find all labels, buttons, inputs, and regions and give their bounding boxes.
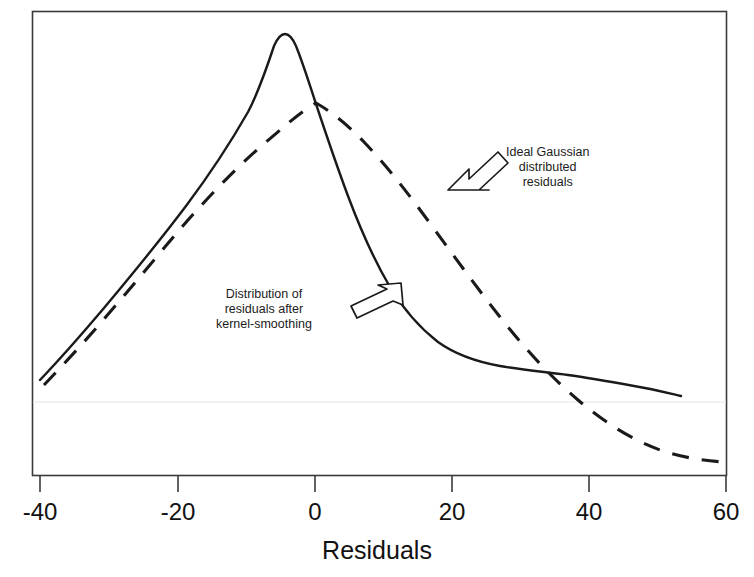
arrow-to-kernel-smoothed [351,283,403,318]
plot-frame [33,12,727,476]
x-axis-ticks [40,476,726,492]
annotation-kernel-smoothing-line-1: Distribution of [216,287,312,302]
x-tick-label-40: 40 [576,498,603,526]
annotation-ideal-gaussian-line-3: residuals [506,175,589,190]
x-tick-label--20: -20 [161,498,196,526]
annotation-ideal-gaussian: Ideal Gaussian distributed residuals [506,145,589,190]
x-axis-title: Residuals [322,536,432,565]
annotation-kernel-smoothing-line-3: kernel-smoothing [216,317,312,332]
series-ideal-gaussian-curve [44,103,724,462]
arrow-to-ideal-gaussian [448,152,508,190]
x-tick-label-20: 20 [439,498,466,526]
residuals-density-plot [0,0,754,577]
x-tick-label-60: 60 [713,498,740,526]
x-tick-label--40: -40 [23,498,58,526]
annotation-ideal-gaussian-line-1: Ideal Gaussian [506,145,589,160]
annotation-ideal-gaussian-line-2: distributed [506,160,589,175]
series-kernel-smoothed-curve [40,34,681,396]
chart-figure: Ideal Gaussian distributed residuals Dis… [0,0,754,577]
x-tick-label-0: 0 [308,498,321,526]
annotation-kernel-smoothing: Distribution of residuals after kernel-s… [216,287,312,332]
annotation-kernel-smoothing-line-2: residuals after [216,302,312,317]
